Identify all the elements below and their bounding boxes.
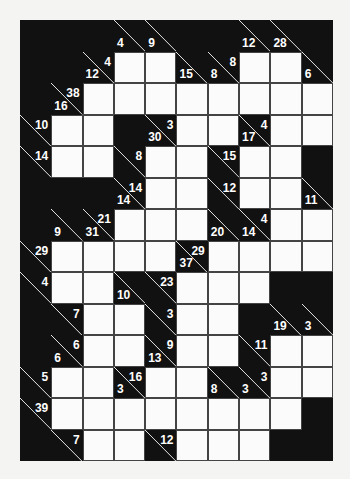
entry-cell[interactable] [302,241,333,273]
entry-cell[interactable] [302,115,333,147]
clue-cell: 12 [208,178,239,210]
entry-cell[interactable] [114,83,145,115]
down-sum: 12 [242,37,255,49]
entry-cell[interactable] [176,83,207,115]
entry-cell[interactable] [114,430,145,462]
across-sum: 6 [73,339,80,351]
block-cell [83,178,114,210]
entry-cell[interactable] [114,304,145,336]
entry-cell[interactable] [176,272,207,304]
entry-cell[interactable] [176,146,207,178]
entry-cell[interactable] [145,398,176,430]
down-sum: 8 [211,68,218,80]
entry-cell[interactable] [302,367,333,399]
block-cell [20,335,51,367]
entry-cell[interactable] [176,367,207,399]
entry-cell[interactable] [176,398,207,430]
entry-cell[interactable] [270,83,301,115]
entry-cell[interactable] [302,209,333,241]
entry-cell[interactable] [208,83,239,115]
clue-cell: 7 [51,430,82,462]
entry-cell[interactable] [270,115,301,147]
down-sum: 3 [117,383,124,395]
entry-cell[interactable] [176,304,207,336]
entry-cell[interactable] [114,398,145,430]
entry-cell[interactable] [51,115,82,147]
entry-cell[interactable] [270,367,301,399]
entry-cell[interactable] [145,83,176,115]
entry-cell[interactable] [208,398,239,430]
entry-cell[interactable] [208,430,239,462]
across-sum: 5 [42,371,49,383]
entry-cell[interactable] [145,178,176,210]
entry-cell[interactable] [114,52,145,84]
entry-cell[interactable] [270,241,301,273]
entry-cell[interactable] [302,335,333,367]
entry-cell[interactable] [83,335,114,367]
entry-cell[interactable] [83,241,114,273]
entry-cell[interactable] [51,146,82,178]
entry-cell[interactable] [145,209,176,241]
entry-cell[interactable] [208,304,239,336]
entry-cell[interactable] [145,241,176,273]
entry-cell[interactable] [208,115,239,147]
entry-cell[interactable] [145,146,176,178]
entry-cell[interactable] [239,430,270,462]
down-sum: 3 [305,320,312,332]
entry-cell[interactable] [114,209,145,241]
entry-cell[interactable] [145,52,176,84]
clue-cell: 66 [51,335,82,367]
entry-cell[interactable] [208,335,239,367]
entry-cell[interactable] [270,398,301,430]
entry-cell[interactable] [270,335,301,367]
across-sum: 14 [129,182,142,194]
entry-cell[interactable] [208,241,239,273]
entry-cell[interactable] [83,272,114,304]
entry-cell[interactable] [51,241,82,273]
entry-cell[interactable] [83,115,114,147]
clue-cell: 12 [239,20,270,52]
entry-cell[interactable] [83,304,114,336]
across-sum: 4 [261,119,268,131]
entry-cell[interactable] [239,178,270,210]
entry-cell[interactable] [145,367,176,399]
entry-cell[interactable] [83,430,114,462]
entry-cell[interactable] [270,209,301,241]
entry-cell[interactable] [239,83,270,115]
entry-cell[interactable] [51,398,82,430]
entry-cell[interactable] [83,398,114,430]
entry-cell[interactable] [270,52,301,84]
entry-cell[interactable] [239,52,270,84]
entry-cell[interactable] [176,115,207,147]
entry-cell[interactable] [176,178,207,210]
entry-cell[interactable] [83,367,114,399]
clue-cell: 417 [239,115,270,147]
clue-cell: 12 [145,430,176,462]
down-sum: 6 [305,68,312,80]
across-sum: 38 [66,87,79,99]
across-sum: 7 [73,434,80,446]
entry-cell[interactable] [176,209,207,241]
entry-cell[interactable] [239,241,270,273]
entry-cell[interactable] [302,83,333,115]
entry-cell[interactable] [83,83,114,115]
clue-cell: 414 [239,209,270,241]
entry-cell[interactable] [239,398,270,430]
entry-cell[interactable] [239,146,270,178]
entry-cell[interactable] [208,272,239,304]
entry-cell[interactable] [176,430,207,462]
clue-cell: 10 [20,115,51,147]
entry-cell[interactable] [51,272,82,304]
entry-cell[interactable] [176,335,207,367]
entry-cell[interactable] [51,367,82,399]
clue-cell: 10 [114,272,145,304]
across-sum: 3 [167,308,174,320]
clue-cell: 6 [302,52,333,84]
entry-cell[interactable] [239,272,270,304]
entry-cell[interactable] [114,241,145,273]
entry-cell[interactable] [114,335,145,367]
across-sum: 15 [223,150,236,162]
entry-cell[interactable] [270,178,301,210]
entry-cell[interactable] [83,146,114,178]
entry-cell[interactable] [270,146,301,178]
